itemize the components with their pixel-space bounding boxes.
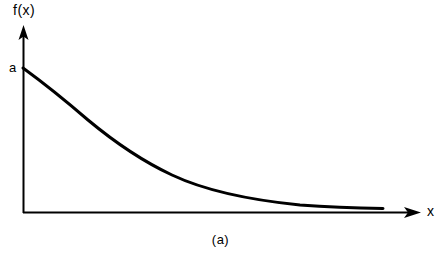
x-axis-label: x — [427, 204, 434, 218]
figure-container: f(x) a x (a) — [0, 0, 441, 259]
y-intercept-label: a — [9, 61, 16, 74]
figure-caption: (a) — [0, 233, 441, 246]
exponential-decay-chart — [0, 0, 441, 259]
y-axis-label: f(x) — [13, 3, 35, 17]
decay-curve — [23, 68, 383, 209]
